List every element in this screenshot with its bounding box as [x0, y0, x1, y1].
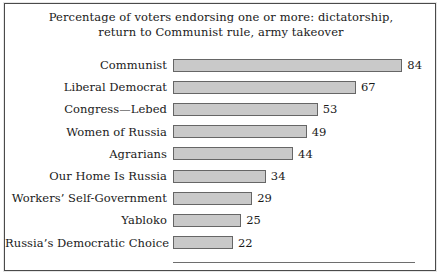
chart-frame: Percentage of voters endorsing one or mo… [4, 3, 436, 271]
bar [173, 192, 252, 205]
bar-row: Liberal Democrat67 [5, 79, 437, 96]
bar-value-label: 29 [257, 190, 272, 207]
bar-row: Our Home Is Russia34 [5, 168, 437, 185]
bar-category-label: Congress—Lebed [5, 101, 167, 118]
chart-title: Percentage of voters endorsing one or mo… [5, 10, 437, 40]
bar-row: Agrarians44 [5, 146, 437, 163]
bar-value-label: 25 [246, 212, 261, 229]
bar-value-label: 49 [312, 124, 327, 141]
bar-value-label: 22 [238, 235, 253, 252]
bar-row: Congress—Lebed53 [5, 101, 437, 118]
bar [173, 59, 402, 72]
bar-chart-plot-area: Communist84Liberal Democrat67Congress—Le… [5, 56, 437, 266]
chart-title-line-1: Percentage of voters endorsing one or mo… [5, 10, 437, 25]
bar-value-label: 34 [271, 168, 286, 185]
x-axis-line [173, 262, 415, 263]
bar-value-label: 44 [298, 146, 313, 163]
bar-category-label: Workers’ Self-Government [5, 190, 167, 207]
bar-value-label: 84 [407, 57, 422, 74]
bar-row: Workers’ Self-Government29 [5, 190, 437, 207]
bar [173, 214, 241, 227]
bar [173, 236, 233, 249]
bar [173, 81, 356, 94]
bar-category-label: Women of Russia [5, 124, 167, 141]
bar-row: Communist84 [5, 57, 437, 74]
bar-row: Women of Russia49 [5, 124, 437, 141]
bar-category-label: Our Home Is Russia [5, 168, 167, 185]
bar-value-label: 53 [323, 101, 338, 118]
bar-category-label: Yabloko [5, 212, 167, 229]
bar [173, 103, 318, 116]
bar-value-label: 67 [361, 79, 376, 96]
bar-category-label: Russia’s Democratic Choice [5, 235, 167, 252]
chart-title-line-2: return to Communist rule, army takeover [5, 25, 437, 40]
bar [173, 125, 307, 138]
bar [173, 147, 293, 160]
bar-category-label: Communist [5, 57, 167, 74]
bar-category-label: Agrarians [5, 146, 167, 163]
bar-category-label: Liberal Democrat [5, 79, 167, 96]
bar-row: Yabloko25 [5, 212, 437, 229]
bar [173, 170, 266, 183]
bar-row: Russia’s Democratic Choice22 [5, 235, 437, 252]
